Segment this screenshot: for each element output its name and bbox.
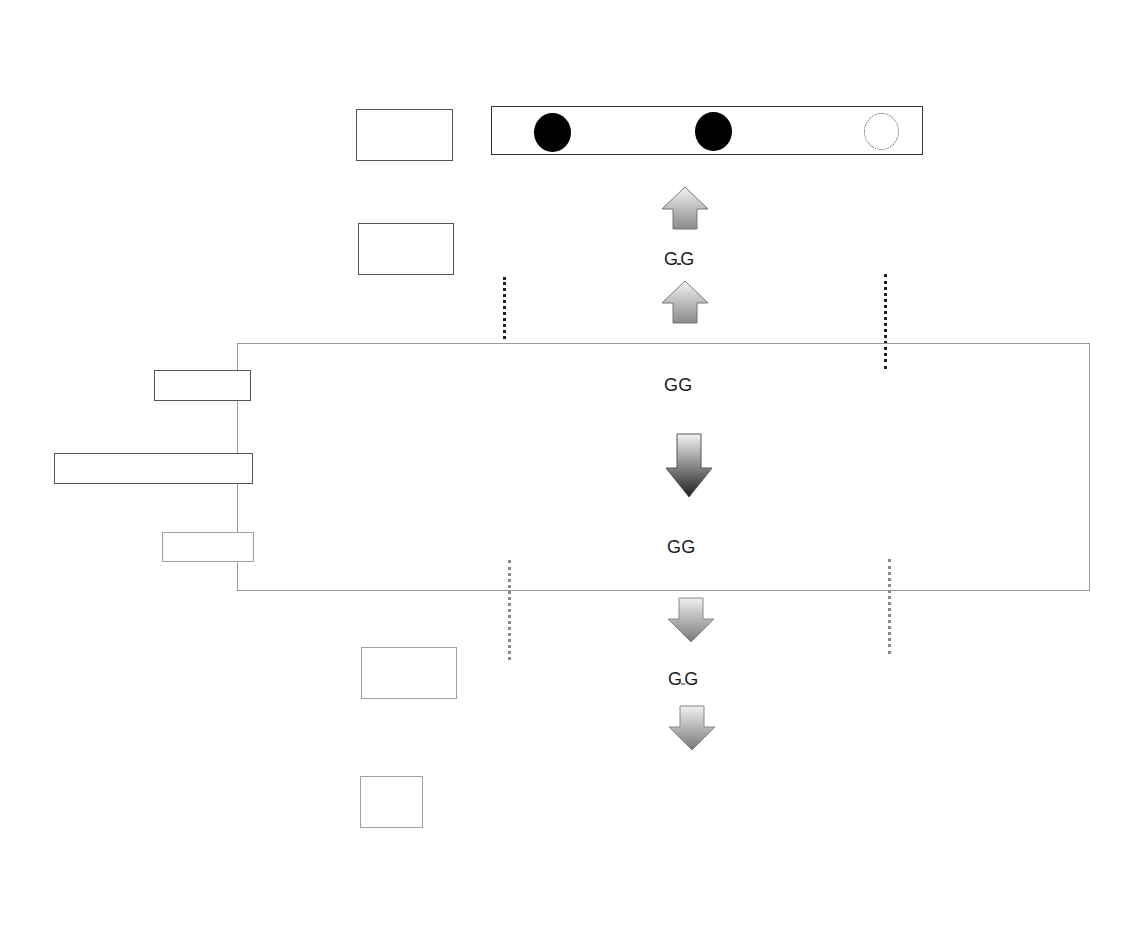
top-dot-blot-label — [356, 109, 453, 161]
synthesize-aso-up-arrow-icon — [660, 280, 710, 324]
aso-a-target-codon: GG — [664, 250, 694, 268]
synthesize-aso-down-arrow-icon — [666, 597, 716, 643]
s-aso-label — [361, 647, 457, 699]
top-dot-homozygote-empty — [864, 113, 899, 150]
top-dot-blot-strip — [491, 106, 923, 155]
alignment-line-left — [503, 277, 506, 339]
hybridization-down-arrow-icon — [667, 705, 717, 751]
aso-s-highlight-base — [681, 683, 685, 685]
bottom-dot-blot-label — [360, 776, 423, 828]
mutant-tag — [162, 532, 254, 562]
mutant-alignment-line-right — [888, 559, 891, 654]
mutant-alignment-line-left — [508, 560, 511, 660]
hybridization-up-arrow-icon — [660, 186, 710, 230]
top-dot-normal — [534, 113, 571, 152]
top-dot-heterozygote — [695, 112, 732, 151]
aso-s-target-codon: GG — [668, 670, 698, 688]
gene-sequences-label — [54, 453, 253, 484]
mutant-mutation-codon: GG — [667, 538, 695, 556]
aso-a-highlight-base — [677, 263, 681, 265]
sickle-cell-mutation-down-arrow-icon — [664, 433, 714, 499]
normal-mutation-codon: GG — [664, 376, 692, 394]
beta-a-aso-label — [358, 223, 454, 275]
normal-tag — [154, 370, 251, 401]
